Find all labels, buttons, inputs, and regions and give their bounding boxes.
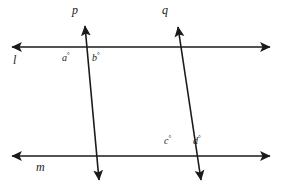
degree-symbol-d: ° [198, 134, 201, 142]
line-label-l: l [13, 54, 16, 66]
line-label-m: m [36, 161, 45, 173]
degree-symbol-c: ° [168, 134, 171, 142]
angle-label-a: a° [62, 52, 70, 63]
line-label-q: q [162, 4, 168, 16]
angle-label-b: b° [92, 52, 100, 63]
geometry-diagram: l m p q a° b° c° d° [0, 0, 282, 188]
line-q [178, 27, 201, 180]
line-p [85, 26, 99, 180]
line-label-p: p [72, 4, 78, 16]
angle-label-c: c° [164, 135, 171, 146]
degree-symbol-a: ° [67, 51, 70, 59]
degree-symbol-b: ° [97, 51, 100, 59]
angle-label-d: d° [193, 135, 201, 146]
